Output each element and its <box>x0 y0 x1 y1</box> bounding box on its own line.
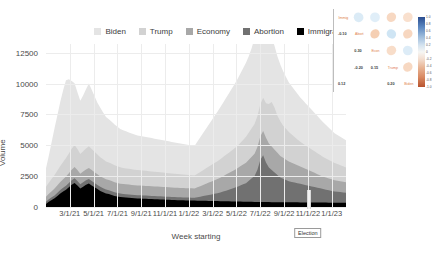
y-axis-tick-label: 0 <box>34 203 38 212</box>
gridline-vertical <box>70 44 71 207</box>
gridline-vertical <box>94 44 95 207</box>
colorbar-tick-label: -1.0 <box>426 85 432 89</box>
x-axis-tick-label: 3/1/22 <box>202 209 223 218</box>
y-axis-tick-label: 12500 <box>16 48 38 57</box>
correlation-ellipse <box>401 60 414 73</box>
correlation-ellipse <box>385 11 398 24</box>
y-axis-title: Volume <box>0 139 7 166</box>
y-axis-tick-label: 7500 <box>20 110 38 119</box>
correlation-ellipses: Immig-0.10Abort0.30Econ-0.200.15Trump0.1… <box>334 9 416 92</box>
gridline-horizontal <box>46 84 346 85</box>
colorbar-tick-label: 0.6 <box>426 29 430 33</box>
gridline-vertical <box>213 44 214 207</box>
correlation-value-label: 0.30 <box>354 49 361 53</box>
correlation-value-label: 0.15 <box>371 66 378 70</box>
legend-label-biden: Biden <box>105 27 125 36</box>
correlation-ellipse <box>368 27 381 40</box>
gridline-vertical <box>260 44 261 207</box>
correlation-ellipse <box>368 10 382 24</box>
correlation-ellipse <box>385 27 398 40</box>
correlation-ellipse <box>352 10 366 24</box>
correlation-diagonal-label: Abort <box>355 32 364 36</box>
election-annotation-label[interactable]: Election <box>294 228 322 238</box>
legend-label-economy: Economy <box>197 27 230 36</box>
legend-item-economy[interactable]: Economy <box>186 27 230 36</box>
x-axis-tick-label: 9/1/21 <box>131 209 152 218</box>
correlation-diagonal-label: Immig <box>339 16 349 20</box>
legend-swatch-biden <box>94 28 101 35</box>
colorbar-tick-label: 1.0 <box>426 15 430 19</box>
x-axis-tick-label: 1/1/23 <box>321 209 342 218</box>
x-axis-tick-label: 11/1/21 <box>153 209 177 218</box>
gridline-vertical <box>308 44 309 207</box>
legend-item-trump[interactable]: Trump <box>139 27 173 36</box>
x-axis: 3/1/215/1/217/1/219/1/2111/1/211/1/223/1… <box>46 209 346 223</box>
legend-item-abortion[interactable]: Abortion <box>243 27 284 36</box>
x-axis-tick-label: 9/1/22 <box>274 209 295 218</box>
gridline-vertical <box>141 44 142 207</box>
y-axis-tick-label: 5000 <box>20 141 38 150</box>
legend-label-trump: Trump <box>150 27 173 36</box>
correlation-value-label: -0.10 <box>338 32 347 36</box>
correlation-value-label: 0.12 <box>338 82 345 86</box>
colorbar-tick-label: -0.8 <box>426 78 432 82</box>
election-marker-line <box>307 190 311 209</box>
gridline-horizontal <box>46 145 346 146</box>
gridline-vertical <box>165 44 166 207</box>
gridline-horizontal <box>46 53 346 54</box>
correlation-diagonal-label: Trump <box>388 66 398 70</box>
y-axis-tick-label: 10000 <box>16 79 38 88</box>
plot-area <box>46 44 346 207</box>
legend-swatch-immigration <box>297 28 304 35</box>
colorbar-tick-label: 0 <box>426 50 428 54</box>
correlation-value-label: -0.20 <box>354 66 363 70</box>
colorbar-tick-label: 0.8 <box>426 22 430 26</box>
gridline-horizontal <box>46 176 346 177</box>
gridline-vertical <box>284 44 285 207</box>
correlation-inset-panel: Immig-0.10Abort0.30Econ-0.200.15Trump0.1… <box>333 9 440 92</box>
colorbar-tick-label: 0.4 <box>426 36 430 40</box>
colorbar-tick-label: -0.4 <box>426 64 432 68</box>
x-axis-tick-label: 3/1/21 <box>59 209 80 218</box>
correlation-diagonal-label: Econ <box>371 49 379 53</box>
legend-swatch-economy <box>186 28 193 35</box>
gridline-horizontal <box>46 207 346 208</box>
legend-label-abortion: Abortion <box>254 27 284 36</box>
gridline-vertical <box>236 44 237 207</box>
correlation-ellipse <box>385 44 399 58</box>
x-axis-tick-label: 1/1/22 <box>178 209 199 218</box>
x-axis-tick-label: 11/1/22 <box>296 209 320 218</box>
stacked-area-series <box>46 44 346 207</box>
gridline-vertical <box>189 44 190 207</box>
legend-item-biden[interactable]: Biden <box>94 27 125 36</box>
legend-swatch-trump <box>139 28 146 35</box>
y-axis-tick-label: 2500 <box>20 172 38 181</box>
colorbar-tick-label: -0.6 <box>426 71 432 75</box>
gridline-vertical <box>117 44 118 207</box>
correlation-ellipse <box>401 27 414 40</box>
x-axis-tick-label: 5/1/22 <box>226 209 247 218</box>
correlation-colorbar <box>418 17 425 87</box>
correlation-ellipse <box>401 44 415 58</box>
correlation-ellipse <box>401 10 415 24</box>
legend-swatch-abortion <box>243 28 250 35</box>
gridline-horizontal <box>46 114 346 115</box>
colorbar-tick-label: 0.2 <box>426 43 430 47</box>
x-axis-tick-label: 5/1/21 <box>83 209 104 218</box>
correlation-diagonal-label: Biden <box>404 82 413 86</box>
y-axis: Volume 02500500075001000012500 <box>0 44 42 207</box>
colorbar-tick-label: -0.2 <box>426 57 432 61</box>
x-axis-tick-label: 7/1/22 <box>250 209 271 218</box>
chart-root: Biden Trump Economy Abortion Immigration… <box>0 0 444 259</box>
correlation-value-label: 0.20 <box>387 82 394 86</box>
x-axis-tick-label: 7/1/21 <box>107 209 128 218</box>
